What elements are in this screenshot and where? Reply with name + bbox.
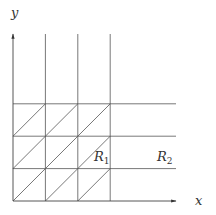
region-label-r1-name: R — [93, 149, 104, 164]
y-axis-label: y — [10, 5, 19, 20]
cell-diagonal — [45, 169, 77, 201]
x-axis-label: x — [195, 193, 203, 208]
cell-diagonal — [45, 136, 77, 168]
cell-diagonal — [78, 169, 110, 201]
region-label-r2-sub: 2 — [167, 156, 173, 166]
cell-diagonal — [13, 104, 45, 136]
diagram-canvas: x y R1 R2 — [0, 0, 216, 215]
region-label-r1: R1 — [93, 149, 110, 166]
cell-diagonal — [78, 104, 110, 136]
cell-diagonal — [13, 136, 45, 168]
region-label-r2-name: R — [156, 149, 167, 164]
region-label-r1-sub: 1 — [104, 156, 110, 166]
cell-diagonal — [13, 169, 45, 201]
region-label-r2: R2 — [156, 149, 173, 166]
cell-diagonal — [45, 104, 77, 136]
grid-lines — [13, 34, 176, 201]
